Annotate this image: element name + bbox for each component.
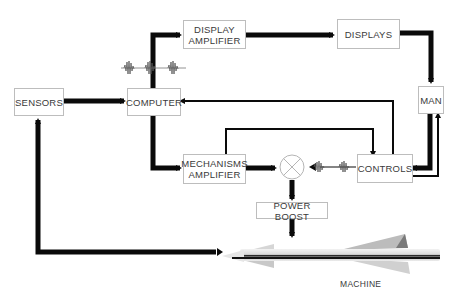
machine-label: MACHINE [340, 279, 381, 289]
arrow-machine-to-sensors [38, 120, 216, 252]
controls-block: CONTROLS [357, 154, 413, 183]
arrow-displays-to-man [400, 33, 431, 82]
sensors-block: SENSORS [14, 88, 64, 116]
man-block: MAN [418, 86, 444, 114]
sensors-label: SENSORS [15, 97, 63, 108]
machine-missile-image [222, 234, 440, 274]
power-boost-label: POWER BOOST [257, 200, 327, 222]
man-label: MAN [420, 95, 442, 106]
display-amplifier-label-2: AMPLIFIER [189, 35, 241, 46]
arrow-man-to-controls [413, 113, 430, 168]
arrow-computer-to-mechanisms-amplifier [153, 114, 180, 168]
summing-junction [280, 155, 304, 179]
display-amplifier-block: DISPLAY AMPLIFIER [183, 20, 246, 49]
mechanisms-amplifier-block: MECHANISMS AMPLIFIER [183, 154, 246, 184]
displays-block: DISPLAYS [337, 19, 400, 49]
mechanisms-amplifier-label-2: AMPLIFIER [189, 169, 241, 180]
line-mechanisms-to-controls [226, 129, 373, 155]
controls-label: CONTROLS [358, 163, 412, 174]
displays-label: DISPLAYS [345, 29, 392, 40]
arrow-computer-to-display-amplifier [153, 35, 180, 88]
computer-label: COMPUTER [126, 97, 182, 108]
computer-block: COMPUTER [127, 88, 181, 116]
display-amplifier-label-1: DISPLAY [194, 24, 235, 35]
power-boost-block: POWER BOOST [256, 202, 328, 219]
mechanisms-amplifier-label-1: MECHANISMS [181, 158, 247, 169]
